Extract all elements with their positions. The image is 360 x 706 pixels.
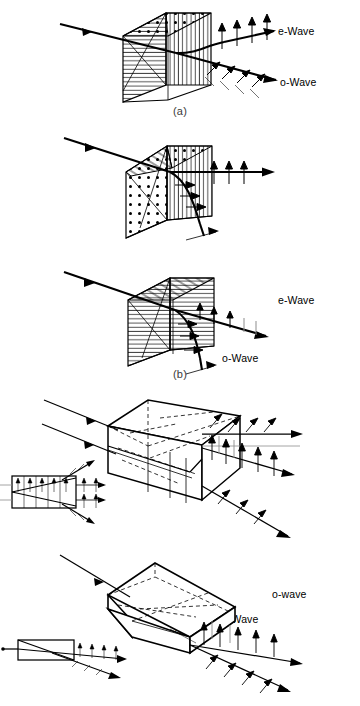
panel-b: e-Wave o-Wave (b)	[0, 128, 360, 258]
panel-a-caption: (a)	[0, 105, 360, 117]
panel-d-drawing	[0, 388, 360, 543]
panel-e: e-Wave o-Wave (e)	[0, 545, 360, 706]
panel-b-drawing	[0, 128, 360, 258]
panel-a-label-e-wave: e-Wave	[278, 25, 314, 37]
panel-a-label-o-wave: o-Wave	[280, 76, 316, 88]
panel-e-inset	[1, 640, 127, 679]
panel-d: o-Wave e-Wave o-Wave (d)	[0, 388, 360, 543]
panel-c: o-wave e-Wave (c)	[0, 258, 360, 388]
panel-c-drawing	[0, 258, 360, 388]
polarizing-prism-figure: e-Wave o-Wave (a)	[0, 0, 360, 706]
panel-a: e-Wave o-Wave (a)	[0, 0, 360, 130]
panel-e-drawing	[0, 545, 360, 706]
panel-d-inset	[0, 460, 106, 524]
